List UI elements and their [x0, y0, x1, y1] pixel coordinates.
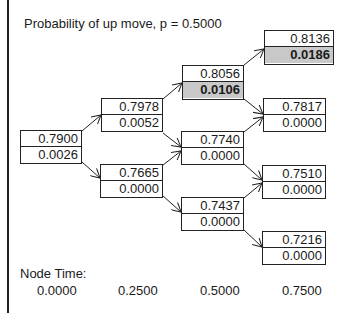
- node-option-value: 0.0000: [182, 148, 243, 164]
- node-asset-value: 0.8056: [183, 66, 243, 82]
- tree-node-1-1: 0.7665 0.0000: [100, 164, 163, 198]
- tree-node-3-1: 0.7817 0.0000: [263, 98, 326, 132]
- node-option-value: 0.0000: [263, 248, 325, 264]
- node-asset-value: 0.7216: [263, 232, 325, 248]
- node-asset-value: 0.8136: [265, 31, 333, 47]
- node-asset-value: 0.7817: [264, 99, 325, 115]
- node-option-value: 0.0026: [21, 147, 81, 163]
- tree-node-2-0: 0.8056 0.0106: [182, 65, 244, 100]
- tree-node-3-3: 0.7216 0.0000: [262, 231, 326, 265]
- tree-node-1-0: 0.7978 0.0052: [101, 98, 163, 132]
- node-option-value: 0.0000: [264, 115, 325, 131]
- node-asset-value: 0.7900: [21, 131, 81, 147]
- tree-node-0-0: 0.7900 0.0026: [20, 130, 82, 164]
- node-option-value-highlighted: 0.0106: [183, 82, 243, 98]
- node-time-2: 0.5000: [200, 283, 240, 298]
- tree-node-2-2: 0.7437 0.0000: [181, 197, 244, 231]
- node-time-0: 0.0000: [37, 283, 77, 298]
- node-asset-value: 0.7740: [182, 132, 243, 148]
- node-asset-value: 0.7510: [263, 166, 325, 182]
- node-asset-value: 0.7978: [102, 99, 162, 115]
- tree-node-3-2: 0.7510 0.0000: [262, 165, 326, 199]
- node-asset-value: 0.7665: [101, 165, 162, 181]
- node-option-value-highlighted: 0.0186: [265, 47, 333, 63]
- node-time-3: 0.7500: [282, 283, 322, 298]
- node-option-value: 0.0052: [102, 115, 162, 131]
- tree-node-3-0: 0.8136 0.0186: [264, 30, 334, 65]
- node-time-label: Node Time:: [20, 266, 86, 281]
- node-option-value: 0.0000: [182, 214, 243, 230]
- node-asset-value: 0.7437: [182, 198, 243, 214]
- node-option-value: 0.0000: [101, 181, 162, 197]
- node-time-1: 0.2500: [118, 283, 158, 298]
- tree-node-2-1: 0.7740 0.0000: [181, 131, 244, 165]
- node-option-value: 0.0000: [263, 182, 325, 198]
